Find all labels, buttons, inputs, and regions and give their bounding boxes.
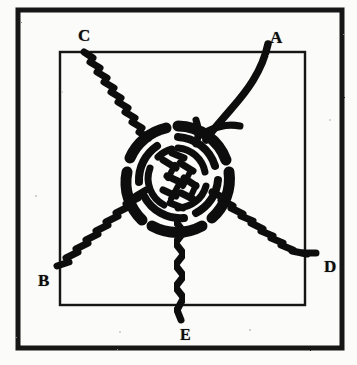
knot-illustration — [0, 0, 357, 365]
label-e: E — [180, 327, 191, 343]
label-d: D — [324, 258, 336, 275]
label-a: A — [270, 29, 282, 46]
label-b: B — [38, 272, 49, 289]
knot-figure: A B C D E — [0, 0, 357, 365]
label-c: C — [78, 27, 90, 44]
